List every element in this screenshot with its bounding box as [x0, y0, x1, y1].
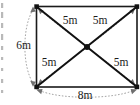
geometry-canvas: 5m 5m 5m 5m 6m 8m — [0, 0, 140, 105]
width-arrow-right — [131, 89, 137, 94]
geometry-diagram: 5m 5m 5m 5m 6m 8m — [0, 0, 140, 105]
label-diagonal-top-right: 5m — [93, 14, 108, 26]
vertex-bottom-left — [34, 85, 39, 90]
label-diagonal-top-left: 5m — [63, 14, 78, 26]
vertex-top-left — [34, 4, 39, 9]
vertex-bottom-right — [135, 85, 140, 90]
label-diagonal-bottom-right: 5m — [114, 56, 129, 68]
label-diagonal-bottom-left: 5m — [42, 56, 57, 68]
center-point — [84, 44, 90, 50]
label-width-bottom: 8m — [78, 89, 93, 101]
label-height-left: 6m — [16, 39, 31, 51]
vertex-top-right — [135, 4, 140, 9]
width-arrow-left — [36, 89, 42, 94]
scan-artifacts — [1, 3, 3, 93]
